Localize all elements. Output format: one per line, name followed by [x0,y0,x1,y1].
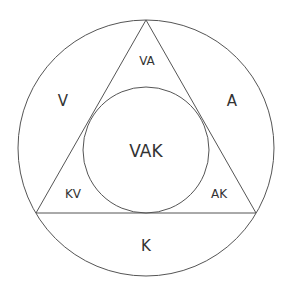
label-kv: KV [65,187,82,201]
label-v: V [58,92,69,110]
triangle [36,20,256,213]
label-va: VA [139,54,155,68]
label-vak: VAK [129,141,163,161]
label-ak: AK [211,187,228,201]
vak-diagram: VA V A VAK KV AK K [0,0,285,292]
label-k: K [141,237,152,255]
label-a: A [227,92,238,110]
